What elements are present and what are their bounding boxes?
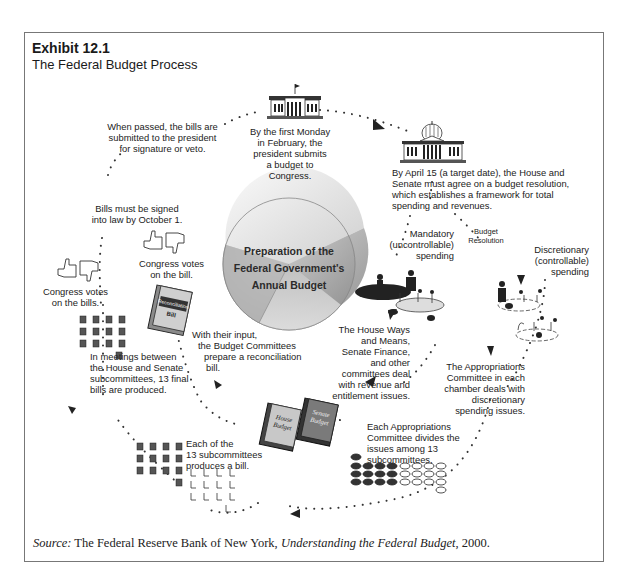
text-line: subcommittees, 13 final	[90, 373, 210, 384]
step-submitted-to-president: When passed, the bills are submitted to …	[100, 121, 225, 154]
text-line: for signature or veto.	[100, 143, 225, 154]
text-line: 13 subcommittees	[186, 449, 286, 460]
text-line: issues among 13	[367, 443, 487, 454]
thumbs-up-down-icon	[58, 259, 98, 281]
text-line: (uncontrollable)	[386, 239, 454, 250]
text-line: the Budget Committees	[192, 340, 312, 351]
text-line: (controllable)	[514, 255, 589, 266]
text-line: Congress votes	[134, 258, 209, 269]
text-line: spending issues.	[425, 405, 525, 416]
text-line: on the bill.	[134, 269, 209, 280]
step-congress-votes-bill: Congress votes on the bill.	[134, 258, 209, 280]
text-line: bills are produced.	[90, 384, 210, 395]
text-line: With their input,	[192, 329, 312, 340]
text-line: in February, the	[240, 137, 340, 148]
text-line: spending and revenues.	[392, 200, 607, 211]
center-label-line: Preparation of the	[214, 243, 364, 260]
step-divides-subcommittees: Each Appropriations Committee divides th…	[367, 421, 487, 465]
text-line: into law by October 1.	[82, 214, 192, 225]
center-pie-label: Preparation of the Federal Government's …	[214, 243, 364, 294]
mandatory-spending-label: Mandatory (uncontrollable) spending	[386, 228, 454, 261]
mandatory-committee-meeting-icon	[355, 270, 444, 321]
budget-resolution-tag: Budget Resolution	[466, 227, 506, 245]
text-line: The Appropriations	[425, 361, 525, 372]
text-line: bill.	[192, 362, 312, 373]
text-line: discretionary	[425, 394, 525, 405]
step-each-subcommittee: Each of the 13 subcommittees produces a …	[186, 438, 286, 471]
text-line: Congress.	[240, 170, 340, 181]
center-label-line: Annual Budget	[214, 277, 364, 294]
text-line: Committee in each	[425, 372, 525, 383]
text-line: subcommittees.	[367, 454, 487, 465]
step-budget-resolution: By April 15 (a target date), the House a…	[392, 167, 607, 211]
text-line: Each Appropriations	[367, 421, 487, 432]
text-line: spending	[514, 266, 589, 277]
text-line: By April 15 (a target date), the House a…	[392, 167, 607, 178]
text-line: Congress votes	[38, 286, 113, 297]
text-line: a budget to	[240, 159, 340, 170]
text-line: Resolution	[466, 236, 506, 245]
text-line: Senate must agree on a budget resolution…	[392, 178, 607, 189]
text-line: Budget	[466, 227, 506, 236]
text-line: president submits	[240, 148, 340, 159]
text-line: Mandatory	[386, 228, 454, 239]
thumbs-up-down-icon	[144, 231, 184, 253]
chairs-icons	[191, 469, 235, 512]
text-line: entitlement issues.	[290, 390, 410, 401]
text-line: Committee divides the	[367, 432, 487, 443]
text-line: spending	[386, 250, 454, 261]
subcommittee-bills-icons	[137, 443, 182, 486]
step-reconciliation-bill: With their input, the Budget Committees …	[192, 329, 312, 373]
arrow-icon	[214, 380, 222, 389]
text-line: Bills must be signed	[82, 203, 192, 214]
text-line: produces a bill.	[186, 460, 286, 471]
text-line: prepare a reconciliation	[192, 351, 312, 362]
senate-budget-book-icon: Senate Budget	[296, 398, 338, 446]
source-org: The Federal Reserve Bank of New York,	[71, 536, 280, 550]
arrow-icon	[373, 119, 385, 130]
source-citation: Source: The Federal Reserve Bank of New …	[33, 536, 490, 551]
capitol-icon	[400, 121, 466, 163]
text-line: on the bills.	[38, 297, 113, 308]
text-line: Each of the	[186, 438, 286, 449]
step-appropriations-committee: The Appropriations Committee in each cha…	[425, 361, 525, 416]
arrow-icon	[290, 509, 300, 518]
text-line: By the first Monday	[240, 126, 340, 137]
text-line: When passed, the bills are	[100, 121, 225, 132]
text-line: submitted to the president	[100, 132, 225, 143]
source-prefix: Source:	[33, 536, 71, 550]
text-line: Discretionary	[514, 244, 589, 255]
text-line: which establishes a framework for total	[392, 189, 607, 200]
step-signed-by-october: Bills must be signed into law by October…	[82, 203, 192, 225]
reconciliation-bill-book-icon: Reconciliation Bill	[148, 285, 192, 336]
white-house-icon	[267, 84, 323, 119]
discretionary-spending-label: Discretionary (controllable) spending	[514, 244, 589, 277]
arrow-icon	[68, 406, 76, 414]
step-president-submits: By the first Monday in February, the pre…	[240, 126, 340, 181]
text-line: with revenue and	[290, 379, 410, 390]
discretionary-committee-meeting-icon	[498, 281, 558, 341]
text-line: chamber deals with	[425, 383, 525, 394]
step-congress-votes-bills: Congress votes on the bills.	[38, 286, 113, 308]
source-year: , 2000.	[456, 536, 490, 550]
center-label-line: Federal Government's	[214, 260, 364, 277]
arrow-icon	[487, 346, 494, 356]
source-work-title: Understanding the Federal Budget	[281, 536, 456, 550]
